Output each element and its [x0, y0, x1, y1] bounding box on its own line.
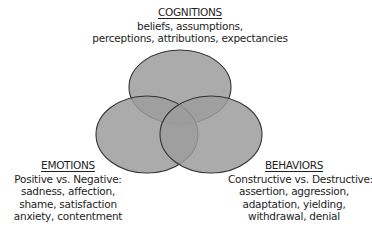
- emotions-line-3: shame, satisfaction: [3, 198, 133, 211]
- behaviors-line-1: Constructive vs. Destructive:: [228, 173, 360, 186]
- cognitions-line-1: beliefs, assumptions,: [90, 20, 290, 33]
- emotions-line-1: Positive vs. Negative:: [3, 173, 133, 186]
- cognitions-label-block: COGNITIONS beliefs, assumptions, percept…: [90, 6, 290, 45]
- behaviors-line-4: withdrawal, denial: [228, 210, 360, 223]
- emotions-line-4: anxiety, contentment: [3, 210, 133, 223]
- behaviors-line-3: adaptation, yielding,: [228, 198, 360, 211]
- behaviors-line-2: assertion, aggression,: [228, 185, 360, 198]
- emotions-heading: EMOTIONS: [41, 159, 95, 172]
- emotions-line-2: sadness, affection,: [3, 185, 133, 198]
- cognitions-heading: COGNITIONS: [158, 6, 222, 19]
- venn-diagram: COGNITIONS beliefs, assumptions, percept…: [0, 0, 372, 236]
- cognitions-line-2: perceptions, attributions, expectancies: [90, 32, 290, 45]
- behaviors-label-block: BEHAVIORS Constructive vs. Destructive: …: [228, 159, 360, 223]
- behaviors-heading: BEHAVIORS: [265, 159, 323, 172]
- emotions-label-block: EMOTIONS Positive vs. Negative: sadness,…: [3, 159, 133, 223]
